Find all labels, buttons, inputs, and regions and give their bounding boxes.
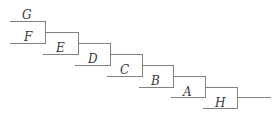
leaf-label-c: C bbox=[120, 64, 129, 76]
leaf-label-a: A bbox=[183, 86, 192, 98]
leaf-label-g: G bbox=[22, 9, 32, 21]
leaf-label-b: B bbox=[151, 75, 160, 87]
leaf-label-d: D bbox=[88, 53, 98, 65]
tree-branch-lines bbox=[11, 22, 271, 109]
leaf-label-e: E bbox=[56, 42, 65, 54]
dendrogram-figure: GFEDCBAH bbox=[0, 0, 278, 128]
dendrogram-canvas bbox=[0, 0, 278, 128]
leaf-label-h: H bbox=[215, 97, 225, 109]
leaf-label-f: F bbox=[24, 31, 32, 43]
